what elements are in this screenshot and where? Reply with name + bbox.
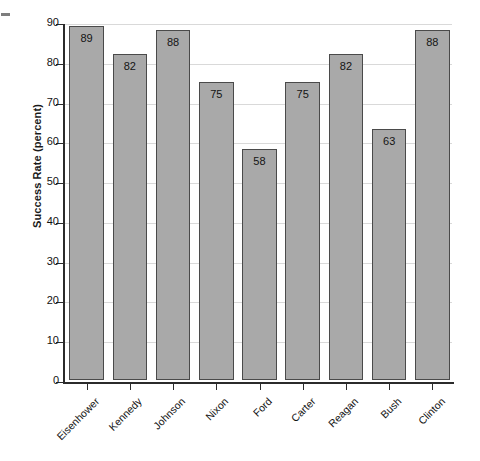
- bar: 63: [372, 129, 407, 380]
- x-tick-mark: [216, 383, 217, 390]
- bar-value-label: 88: [157, 37, 190, 48]
- x-tick-mark: [87, 383, 88, 390]
- x-tick-mark: [130, 383, 131, 390]
- y-tick-label: 80: [47, 56, 59, 68]
- y-tick-label: 40: [47, 215, 59, 227]
- bar-value-label: 89: [70, 33, 103, 44]
- bar: 58: [242, 149, 277, 380]
- x-tick-mark: [346, 383, 347, 390]
- bar: 89: [69, 26, 104, 380]
- y-tick-label: 30: [47, 255, 59, 267]
- bar: 82: [113, 54, 148, 380]
- bar-value-label: 82: [114, 61, 147, 72]
- y-tick-label: 60: [47, 135, 59, 147]
- x-tick-mark: [389, 383, 390, 390]
- y-tick-label: 20: [47, 294, 59, 306]
- x-tick-mark: [432, 383, 433, 390]
- plot-area: 0102030405060708090 898288755875826388 E…: [63, 24, 452, 382]
- bar-value-label: 75: [200, 89, 233, 100]
- y-tick-label: 70: [47, 96, 59, 108]
- x-tick-label: Bush: [378, 395, 403, 420]
- y-axis-line: [63, 24, 65, 383]
- bar-value-label: 82: [330, 61, 363, 72]
- chart-page: Success Rate (percent) 01020304050607080…: [0, 0, 480, 461]
- bar-value-label: 88: [416, 37, 449, 48]
- x-tick-mark: [303, 383, 304, 390]
- x-tick-label: Johnson: [151, 395, 188, 432]
- bar-value-label: 75: [286, 89, 319, 100]
- x-tick-mark: [173, 383, 174, 390]
- y-tick-label: 50: [47, 175, 59, 187]
- bar: 88: [156, 30, 191, 380]
- bar: 75: [199, 82, 234, 380]
- y-tick-label: 0: [53, 374, 59, 386]
- gridline: [65, 24, 452, 25]
- x-tick-label: Ford: [250, 395, 274, 419]
- y-tick-label: 10: [47, 334, 59, 346]
- x-tick-label: Kennedy: [107, 395, 145, 433]
- bar-value-label: 63: [373, 136, 406, 147]
- bar: 75: [285, 82, 320, 380]
- bar: 88: [415, 30, 450, 380]
- x-tick-label: Carter: [288, 395, 317, 424]
- x-axis-line: [63, 382, 454, 384]
- y-tick-label: 90: [47, 16, 59, 28]
- x-tick-label: Eisenhower: [54, 395, 101, 442]
- bar-value-label: 58: [243, 156, 276, 167]
- x-tick-label: Nixon: [203, 395, 230, 422]
- x-tick-mark: [260, 383, 261, 390]
- bar: 82: [329, 54, 364, 380]
- x-tick-label: Reagan: [326, 395, 360, 429]
- x-tick-label: Clinton: [415, 395, 447, 427]
- scan-artifact-mark: [1, 13, 10, 16]
- y-axis-title: Success Rate (percent): [31, 66, 43, 266]
